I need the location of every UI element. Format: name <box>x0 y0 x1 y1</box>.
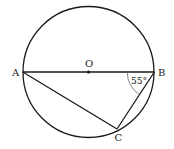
angle-label-b: 55° <box>131 76 147 86</box>
geometry-diagram: A O B C 55° <box>0 0 174 149</box>
center-point-o <box>87 70 90 73</box>
label-a: A <box>11 67 20 78</box>
label-o: O <box>85 58 93 69</box>
label-c: C <box>115 132 123 143</box>
label-b: B <box>158 67 165 78</box>
chord-ac <box>23 72 117 129</box>
